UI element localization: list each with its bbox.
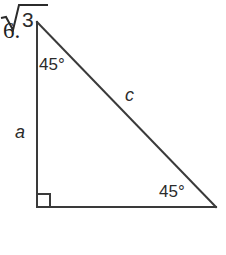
angle-label-bottom-right: 45° [159, 183, 185, 200]
right-angle-marker-icon [37, 194, 50, 207]
triangle-diagram [0, 0, 226, 255]
side-label-hypotenuse: c [125, 86, 134, 104]
triangle-hypotenuse [37, 22, 216, 207]
side-label-base: 3 [0, 0, 52, 32]
radicand-value: 3 [22, 8, 34, 32]
side-label-vertical-leg: a [15, 123, 25, 141]
figure-canvas: 6. 45° 45° a c 3 [0, 0, 226, 255]
angle-label-top: 45° [39, 56, 65, 73]
